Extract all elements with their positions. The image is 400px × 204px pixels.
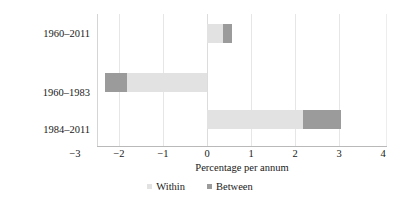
x-tick-label--3: −3	[55, 148, 95, 159]
legend-swatch-between-icon	[207, 184, 212, 189]
bar-segment-between-1960-1983	[105, 73, 127, 92]
bar-segment-within-1960-2011	[207, 24, 223, 43]
x-tick-label-4: 4	[363, 148, 400, 159]
x-tick-label-3: 3	[319, 148, 359, 159]
x-tick-label-0: 0	[187, 148, 227, 159]
plot-area	[97, 14, 387, 147]
legend-label-between: Between	[216, 181, 253, 192]
x-axis-line	[97, 146, 387, 147]
bar-segment-within-1984-2011	[207, 110, 303, 129]
legend-swatch-within-icon	[147, 184, 152, 189]
category-label-1: 1960–1983	[20, 87, 90, 98]
bar-segment-between-1984-2011	[303, 110, 341, 129]
category-label-2: 1984–2011	[20, 124, 90, 135]
legend-label-within: Within	[156, 181, 185, 192]
bar-chart: Years/period 1960–2011 1960–1983 1984–20…	[0, 0, 400, 204]
legend-item-within: Within	[147, 181, 185, 192]
bar-segment-within-1960-1983	[127, 73, 207, 92]
legend-item-between: Between	[207, 181, 253, 192]
category-label-0: 1960–2011	[20, 28, 90, 39]
chart-legend: Within Between	[0, 181, 400, 192]
x-tick-label--1: −1	[143, 148, 183, 159]
x-tick-label-2: 2	[275, 148, 315, 159]
bar-segment-between-1960-2011	[223, 24, 232, 43]
category-axis-labels: 1960–2011 1960–1983 1984–2011	[20, 0, 90, 204]
x-axis-title: Percentage per annum	[97, 162, 387, 173]
x-tick-label--2: −2	[99, 148, 139, 159]
x-tick-label-1: 1	[231, 148, 271, 159]
